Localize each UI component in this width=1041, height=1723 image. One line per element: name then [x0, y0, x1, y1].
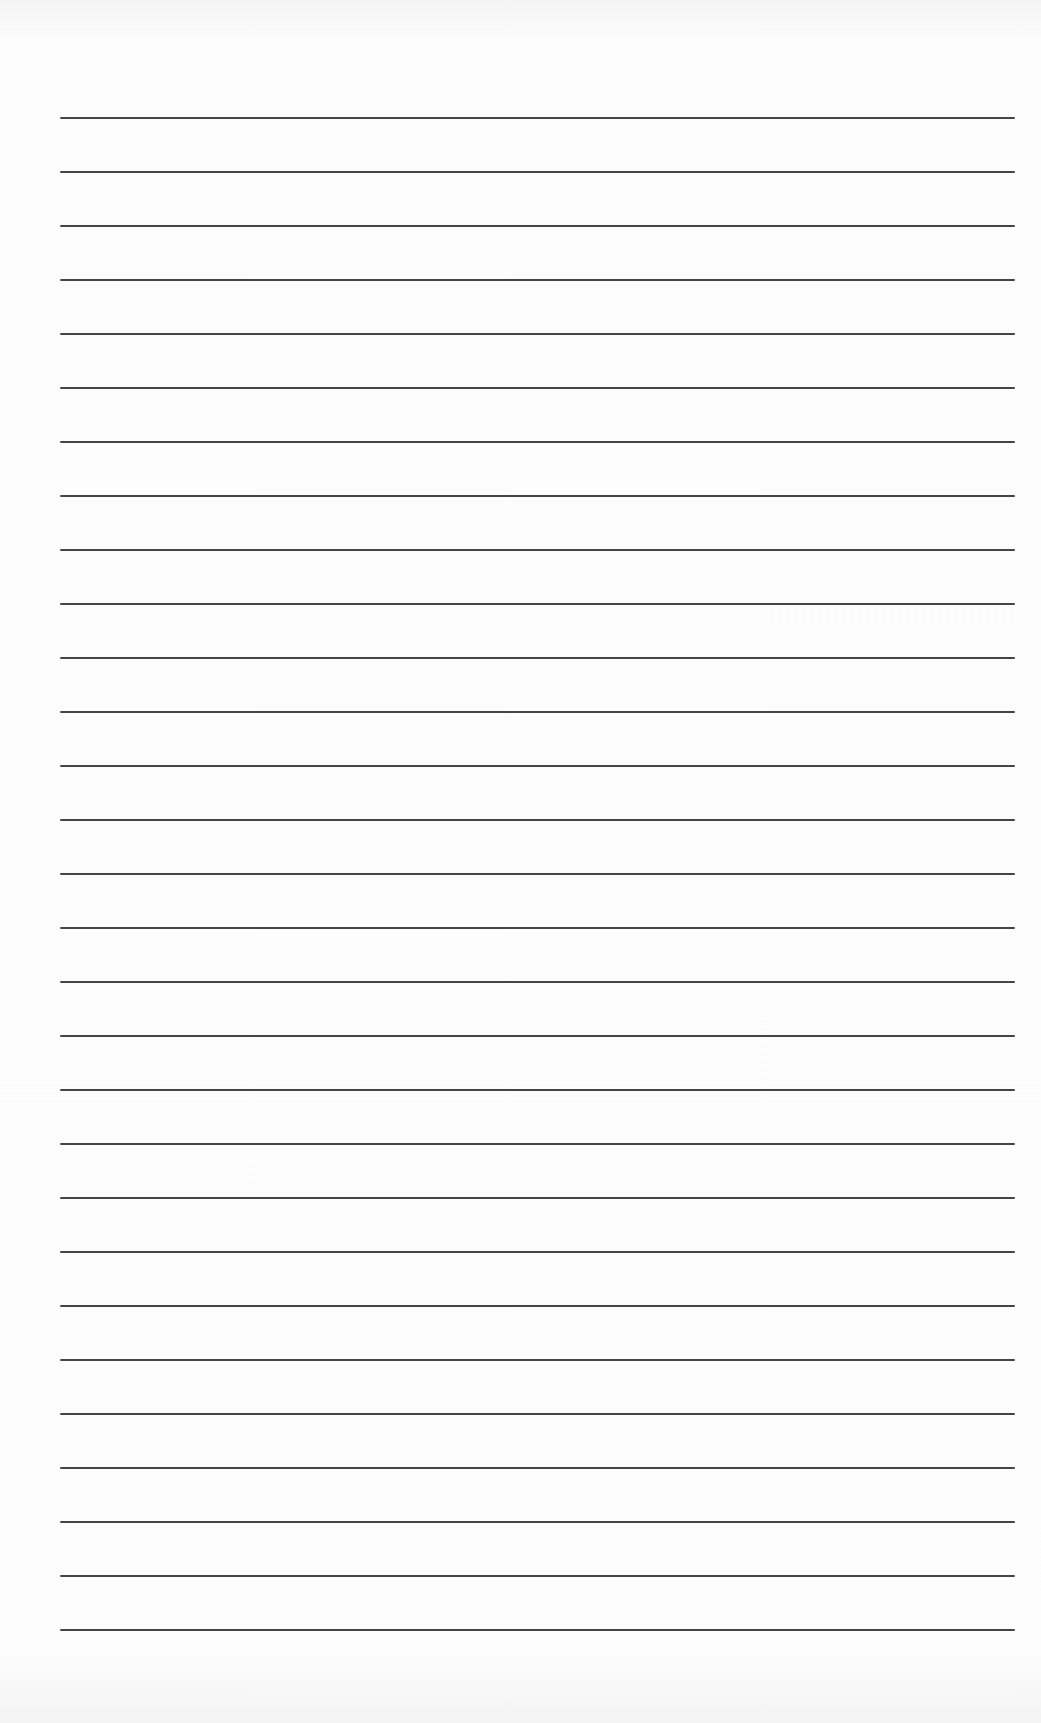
ruled-line [60, 1629, 1015, 1631]
ruled-line [60, 927, 1015, 929]
ruled-line [60, 873, 1015, 875]
lined-paper-sheet [0, 0, 1041, 1723]
ruled-line [60, 1521, 1015, 1523]
ruled-line [60, 819, 1015, 821]
ruled-line [60, 1359, 1015, 1361]
ruled-line [60, 171, 1015, 173]
ruled-line [60, 1251, 1015, 1253]
ruled-line [60, 1089, 1015, 1091]
ruled-line [60, 1197, 1015, 1199]
ruled-line [60, 333, 1015, 335]
ruled-line [60, 657, 1015, 659]
ruled-line [60, 1413, 1015, 1415]
ruled-line [60, 765, 1015, 767]
ruled-line [60, 1305, 1015, 1307]
ruled-line [60, 1035, 1015, 1037]
ruled-line [60, 117, 1015, 119]
ruled-line [60, 1467, 1015, 1469]
ruled-line [60, 387, 1015, 389]
ruled-line [60, 1575, 1015, 1577]
ruled-line [60, 711, 1015, 713]
ruled-line [60, 495, 1015, 497]
ruled-line [60, 441, 1015, 443]
ruled-line [60, 981, 1015, 983]
ruled-line [60, 549, 1015, 551]
ruled-line [60, 603, 1015, 605]
ruled-line [60, 225, 1015, 227]
ruled-line [60, 279, 1015, 281]
ruled-line [60, 1143, 1015, 1145]
